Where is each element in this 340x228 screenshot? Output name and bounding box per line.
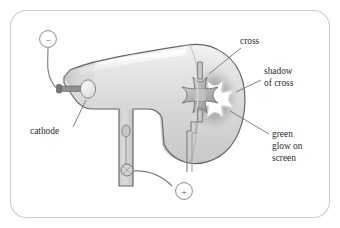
negative-terminal-symbol: − <box>45 35 50 45</box>
cross-post-upper <box>198 62 203 79</box>
label-shadow-line1: shadow <box>264 66 293 76</box>
positive-terminal-symbol: + <box>181 187 186 197</box>
label-cathode: cathode <box>30 126 59 136</box>
cathode-neck-cap <box>57 85 62 93</box>
cathode-neck <box>60 86 82 91</box>
label-green-line3: screen <box>272 153 296 163</box>
label-shadow-line2: of cross <box>264 78 294 88</box>
diagram-canvas: − + cross shadow of cross green glow on … <box>0 0 340 228</box>
cathode-disc <box>80 80 95 98</box>
cross-post-lower <box>198 110 203 122</box>
anode-plate <box>122 125 130 137</box>
positive-terminal[interactable]: + <box>176 183 193 200</box>
label-green-line1: green <box>272 129 293 139</box>
label-cross: cross <box>240 36 260 46</box>
label-green-line2: glow on <box>272 141 303 151</box>
maltese-cross-tube-figure: − + cross shadow of cross green glow on … <box>0 0 340 228</box>
negative-terminal[interactable]: − <box>40 31 57 48</box>
